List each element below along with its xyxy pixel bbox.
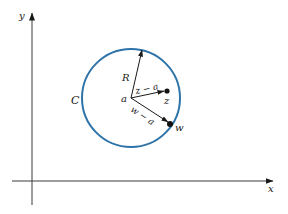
radius-label: R <box>121 72 130 83</box>
z-minus-a-label: z − a <box>133 81 159 96</box>
x-axis-label: x <box>268 183 274 194</box>
diagram-svg: y x C a R z − a z w − a w <box>0 0 288 214</box>
w-minus-a-label: w − a <box>129 104 157 127</box>
point-w <box>167 121 173 127</box>
w-label: w <box>175 122 184 133</box>
z-label: z <box>163 95 170 106</box>
circle-label: C <box>71 94 80 107</box>
point-z <box>164 88 169 93</box>
diagram-canvas: y x C a R z − a z w − a w <box>0 0 288 214</box>
y-axis-label: y <box>18 10 25 21</box>
center-label: a <box>121 93 127 104</box>
